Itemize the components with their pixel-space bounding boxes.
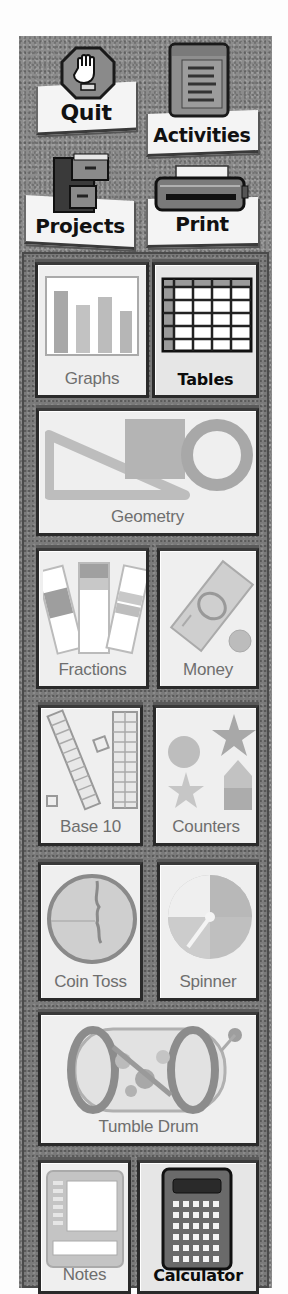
money-tile[interactable]: Money bbox=[157, 548, 259, 689]
base10-tile[interactable]: Base 10 bbox=[38, 705, 143, 846]
activities-button[interactable]: Activities bbox=[146, 40, 258, 154]
quit-label: Quit bbox=[36, 100, 136, 125]
calculator-icon bbox=[161, 1167, 233, 1271]
spinner-tile[interactable]: Spinner bbox=[157, 862, 259, 1001]
graphs-label: Graphs bbox=[38, 369, 146, 389]
counters-label: Counters bbox=[156, 817, 256, 837]
fraction-bars-icon bbox=[43, 559, 147, 655]
projects-button[interactable]: Projects bbox=[24, 152, 136, 248]
notepad-icon bbox=[45, 1169, 125, 1269]
counter-shapes-icon bbox=[158, 710, 258, 814]
projects-label: Projects bbox=[24, 214, 136, 238]
money-label: Money bbox=[160, 660, 256, 680]
printer-icon bbox=[152, 164, 252, 214]
tumbledrum-label: Tumble Drum bbox=[41, 1117, 256, 1137]
spinner-label: Spinner bbox=[160, 972, 256, 992]
print-label: Print bbox=[146, 212, 258, 236]
geometry-shapes-icon bbox=[45, 415, 253, 501]
graphs-tile[interactable]: Graphs bbox=[35, 262, 149, 398]
print-button[interactable]: Print bbox=[146, 164, 258, 248]
cointoss-label: Coin Toss bbox=[41, 972, 140, 992]
tumble-drum-icon bbox=[53, 1021, 247, 1117]
base10-label: Base 10 bbox=[41, 817, 140, 837]
stop-hand-icon bbox=[60, 46, 116, 100]
spinner-wheel-icon bbox=[164, 871, 256, 963]
money-bill-coin-icon bbox=[162, 557, 258, 657]
counters-tile[interactable]: Counters bbox=[153, 705, 259, 846]
activities-label: Activities bbox=[146, 124, 258, 146]
notes-tile[interactable]: Notes bbox=[38, 1160, 131, 1294]
file-cabinet-icon bbox=[52, 152, 112, 214]
coin-icon bbox=[45, 871, 139, 967]
geometry-label: Geometry bbox=[39, 507, 256, 527]
notes-label: Notes bbox=[41, 1265, 128, 1285]
tables-label: Tables bbox=[155, 370, 256, 389]
base-ten-blocks-icon bbox=[43, 708, 143, 812]
cointoss-tile[interactable]: Coin Toss bbox=[38, 862, 143, 1001]
quit-button[interactable]: Quit bbox=[36, 46, 136, 134]
clipboard-list-icon bbox=[168, 40, 230, 118]
geometry-tile[interactable]: Geometry bbox=[36, 408, 259, 536]
table-grid-icon bbox=[161, 277, 253, 353]
bar-graph-icon bbox=[44, 275, 140, 359]
tumbledrum-tile[interactable]: Tumble Drum bbox=[38, 1012, 259, 1146]
tables-tile[interactable]: Tables bbox=[152, 262, 259, 398]
fractions-tile[interactable]: Fractions bbox=[36, 548, 149, 689]
fractions-label: Fractions bbox=[39, 660, 146, 680]
calculator-tile[interactable]: Calculator bbox=[137, 1160, 259, 1294]
calculator-label: Calculator bbox=[140, 1266, 256, 1285]
